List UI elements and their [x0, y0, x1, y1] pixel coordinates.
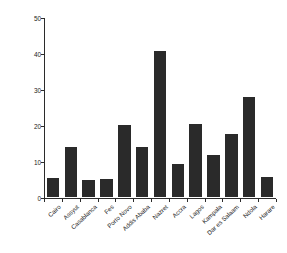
y-tick-label: 20 [34, 122, 41, 131]
y-tick-mark [41, 54, 44, 55]
bar [172, 164, 184, 197]
bar [243, 97, 255, 197]
bar [261, 177, 273, 197]
y-axis-line [44, 18, 45, 199]
y-tick-mark [41, 162, 44, 163]
bar [136, 147, 148, 197]
plot-area: 01020304050 [44, 18, 276, 198]
bar [225, 134, 237, 197]
y-tick-label: 10 [34, 158, 41, 167]
bar [207, 155, 219, 197]
bar [65, 147, 77, 197]
bar [118, 125, 130, 197]
y-tick-label: 30 [34, 86, 41, 95]
y-axis-title: Percentage of children with ARI (%) [16, 0, 28, 30]
y-tick-label: 40 [34, 50, 41, 59]
y-tick-label: 0 [37, 194, 41, 203]
y-tick-mark [41, 90, 44, 91]
bar [82, 180, 94, 197]
y-tick-mark [41, 18, 44, 19]
bar [47, 178, 59, 197]
bar [189, 124, 201, 197]
x-axis-labels: CairoAssyutCasablancaFesPorto NovoAddis … [44, 202, 287, 253]
bar [154, 51, 166, 197]
bar-chart-figure: Percentage of children with ARI (%) 0102… [0, 0, 287, 253]
y-tick-mark [41, 126, 44, 127]
bar [100, 179, 112, 197]
y-tick-label: 50 [34, 14, 41, 23]
